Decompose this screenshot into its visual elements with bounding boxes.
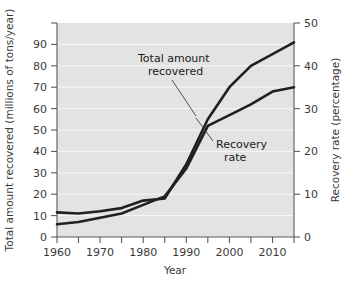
chart-figure: 0 10 20 30 40 50 60 70 80 90 0 10 20 30 … xyxy=(0,0,348,283)
left-tick-label: 90 xyxy=(33,38,47,51)
right-tick-label: 20 xyxy=(304,145,318,158)
right-tick-label: 10 xyxy=(304,188,318,201)
annotation-recovery-rate-line1: Recovery xyxy=(216,138,267,151)
annotation-recovery-rate-line2: rate xyxy=(224,151,247,164)
left-tick-label: 0 xyxy=(40,231,47,244)
right-tick-label: 40 xyxy=(304,60,318,73)
x-tick-label: 1970 xyxy=(86,246,114,259)
left-tick-label: 70 xyxy=(33,81,47,94)
left-axis-title: Total amount recovered (millions of tons… xyxy=(3,9,15,253)
left-tick-label: 30 xyxy=(33,167,47,180)
x-tick-label: 1960 xyxy=(43,246,71,259)
right-tick-label: 30 xyxy=(304,103,318,116)
left-axis-ticks xyxy=(51,23,57,237)
annotation-total-amount-line2: recovered xyxy=(148,65,203,78)
left-tick-label: 10 xyxy=(33,210,47,223)
annotation-total-amount-line1: Total amount xyxy=(137,52,210,65)
left-tick-label: 60 xyxy=(33,103,47,116)
x-axis-tick-labels: 1960 1970 1980 1990 2000 2010 xyxy=(43,246,287,259)
x-axis-title: Year xyxy=(163,264,187,276)
left-tick-label: 40 xyxy=(33,145,47,158)
right-axis-tick-labels: 0 10 20 30 40 50 xyxy=(304,17,318,244)
left-tick-label: 20 xyxy=(33,188,47,201)
x-axis-ticks xyxy=(57,237,294,243)
x-tick-label: 2010 xyxy=(259,246,287,259)
left-tick-label: 80 xyxy=(33,60,47,73)
chart-svg: 0 10 20 30 40 50 60 70 80 90 0 10 20 30 … xyxy=(0,0,348,283)
left-axis-tick-labels: 0 10 20 30 40 50 60 70 80 90 xyxy=(33,38,47,244)
right-tick-label: 0 xyxy=(304,231,311,244)
right-axis-title: Recovery rate (percentage) xyxy=(329,58,341,203)
x-tick-label: 2000 xyxy=(215,246,243,259)
left-tick-label: 50 xyxy=(33,124,47,137)
x-tick-label: 1990 xyxy=(172,246,200,259)
right-tick-label: 50 xyxy=(304,17,318,30)
x-tick-label: 1980 xyxy=(129,246,157,259)
right-axis-ticks xyxy=(294,23,300,237)
